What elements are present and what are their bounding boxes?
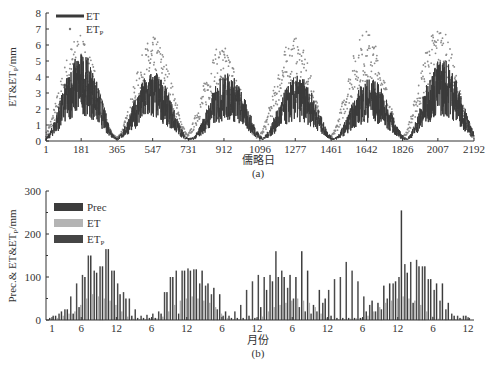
- bar-etp: [193, 269, 194, 320]
- etp-point: [135, 95, 137, 97]
- bar-etp: [299, 307, 300, 320]
- bar-et: [367, 316, 368, 320]
- bar-et: [74, 311, 75, 320]
- etp-point: [172, 94, 174, 96]
- etp-point: [335, 130, 337, 132]
- etp-point: [357, 79, 359, 81]
- etp-point: [285, 46, 287, 48]
- bar-et: [168, 311, 169, 320]
- bar-prec: [55, 316, 56, 320]
- etp-point: [361, 49, 363, 51]
- etp-point: [215, 49, 217, 51]
- etp-point: [297, 46, 299, 48]
- etp-point: [290, 73, 292, 75]
- etp-point: [221, 78, 223, 80]
- bar-prec: [453, 316, 454, 320]
- legend-et-label: ET: [86, 10, 100, 22]
- etp-point: [133, 92, 135, 94]
- bar-etp: [416, 260, 417, 320]
- etp-point: [94, 70, 96, 72]
- etp-point: [131, 98, 133, 100]
- etp-point: [352, 70, 354, 72]
- etp-point: [283, 67, 285, 69]
- chart-a-x-label: 儒略日: [242, 153, 275, 166]
- etp-point: [58, 92, 60, 94]
- bar-etp: [322, 303, 323, 320]
- etp-point: [338, 126, 340, 128]
- etp-point: [371, 70, 373, 72]
- etp-point: [435, 52, 437, 54]
- bar-etp: [117, 283, 118, 320]
- bar-etp: [457, 316, 458, 320]
- bar-prec: [465, 316, 466, 320]
- etp-point: [303, 63, 305, 65]
- x-tick-label: 12: [111, 322, 122, 334]
- etp-point: [286, 60, 288, 62]
- etp-point: [55, 103, 57, 105]
- bar-etp: [246, 290, 247, 320]
- etp-point: [353, 55, 355, 57]
- etp-point: [196, 124, 198, 126]
- etp-point: [150, 58, 152, 60]
- etp-point: [202, 103, 204, 105]
- bar-etp: [240, 305, 241, 320]
- bar-et: [92, 294, 93, 320]
- etp-point: [417, 93, 419, 95]
- y-tick-label: 2: [36, 103, 42, 115]
- etp-point: [376, 58, 378, 60]
- etp-point: [341, 112, 343, 114]
- etp-point: [216, 83, 218, 85]
- etp-point: [201, 98, 203, 100]
- etp-point: [153, 37, 155, 39]
- etp-point: [171, 83, 173, 85]
- etp-point: [224, 54, 226, 56]
- bar-etp: [158, 311, 159, 320]
- bar-et: [273, 307, 274, 320]
- etp-point: [342, 101, 344, 103]
- bar-prec: [395, 281, 396, 320]
- etp-point: [84, 51, 86, 53]
- etp-point: [214, 76, 216, 78]
- etp-point: [226, 60, 228, 62]
- x-tick-label: 1: [43, 143, 49, 155]
- etp-point: [440, 42, 442, 44]
- etp-point: [303, 50, 305, 52]
- bar-prec: [430, 279, 431, 320]
- etp-point: [270, 115, 272, 117]
- bar-prec: [366, 311, 367, 320]
- etp-point: [263, 131, 265, 133]
- etp-point: [310, 75, 312, 77]
- etp-point: [406, 134, 408, 136]
- etp-point: [313, 91, 315, 93]
- bar-et: [174, 305, 175, 320]
- etp-point: [300, 71, 302, 73]
- etp-point: [423, 78, 425, 80]
- etp-point: [362, 70, 364, 72]
- etp-point: [76, 45, 78, 47]
- etp-point: [151, 50, 153, 52]
- etp-point: [133, 86, 135, 88]
- bar-prec: [213, 288, 214, 320]
- etp-point: [222, 59, 224, 61]
- etp-point: [307, 62, 309, 64]
- y-tick-label: 7: [36, 23, 42, 35]
- etp-point: [218, 56, 220, 58]
- etp-point: [428, 66, 430, 68]
- bar-etp: [340, 277, 341, 320]
- bar-et: [197, 299, 198, 321]
- etp-point: [427, 83, 429, 85]
- etp-point: [161, 72, 163, 74]
- etp-point: [348, 102, 350, 104]
- bar-prec: [248, 316, 249, 320]
- etp-point: [298, 49, 300, 51]
- etp-point: [164, 77, 166, 79]
- etp-point: [228, 59, 230, 61]
- etp-point: [126, 115, 128, 117]
- bar-prec: [383, 286, 384, 320]
- etp-point: [353, 57, 355, 59]
- etp-point: [347, 94, 349, 96]
- etp-point: [193, 129, 195, 131]
- etp-point: [123, 123, 125, 125]
- etp-point: [307, 83, 309, 85]
- etp-point: [357, 77, 359, 79]
